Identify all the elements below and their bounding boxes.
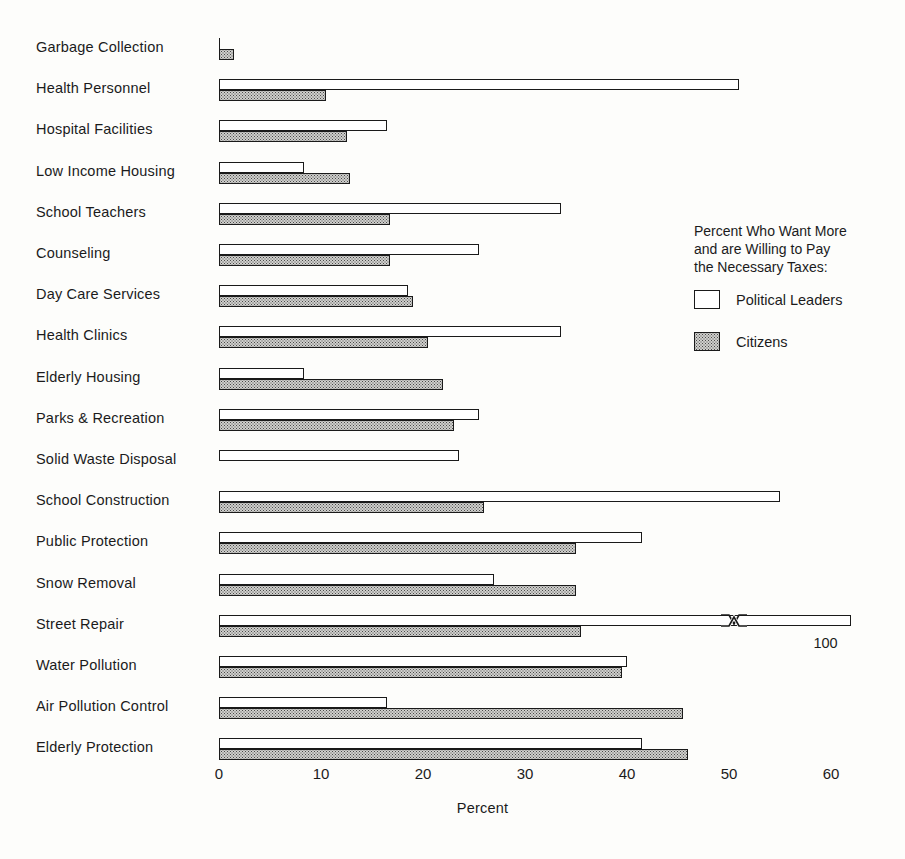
category-label: School Teachers — [36, 205, 226, 220]
bar-political-leaders — [219, 450, 459, 461]
x-axis-title-text: Percent — [457, 800, 508, 816]
category-label: Garbage Collection — [36, 40, 226, 55]
bar-citizens — [219, 49, 234, 60]
x-tick-label: 60 — [823, 765, 840, 782]
category-label: Elderly Protection — [36, 740, 226, 755]
bar-political-leaders — [219, 244, 479, 255]
bar-political-leaders — [219, 162, 304, 173]
bar-group — [219, 162, 905, 188]
x-axis-title: Percent — [0, 800, 905, 816]
legend-item-political-leaders: Political Leaders — [694, 290, 842, 309]
x-tick-label: 50 — [721, 765, 738, 782]
bar-group — [219, 656, 905, 682]
bar-value-label-100: 100 — [813, 635, 837, 651]
bar-political-leaders — [219, 203, 561, 214]
bar-political-leaders — [219, 285, 408, 296]
bar-political-leaders — [219, 120, 387, 131]
bar-group — [219, 532, 905, 558]
category-label: Low Income Housing — [36, 164, 226, 179]
bar-group — [219, 326, 905, 352]
category-label: School Construction — [36, 493, 226, 508]
category-label: Day Care Services — [36, 287, 226, 302]
legend-swatch-political-leaders — [694, 290, 720, 309]
bar-political-leaders — [219, 409, 479, 420]
bar-citizens — [219, 585, 576, 596]
category-label: Water Pollution — [36, 658, 226, 673]
bar-political-leaders — [219, 491, 780, 502]
bar-citizens — [219, 255, 390, 266]
bar-political-leaders — [219, 79, 739, 90]
bar-political-leaders — [219, 326, 561, 337]
x-tick-label: 40 — [619, 765, 636, 782]
category-label: Hospital Facilities — [36, 122, 226, 137]
category-label: Health Personnel — [36, 81, 226, 96]
bar-citizens — [219, 502, 484, 513]
bar-group — [219, 574, 905, 600]
category-label: Solid Waste Disposal — [36, 452, 226, 467]
legend-item-citizens: Citizens — [694, 332, 788, 351]
bar-citizens — [219, 420, 454, 431]
x-tick-label: 10 — [313, 765, 330, 782]
category-label: Air Pollution Control — [36, 699, 226, 714]
bar-citizens — [219, 90, 326, 101]
legend-title: Percent Who Want More and are Willing to… — [694, 222, 904, 276]
bar-political-leaders — [219, 615, 851, 626]
category-label: Street Repair — [36, 617, 226, 632]
category-label: Snow Removal — [36, 576, 226, 591]
bar-group — [219, 697, 905, 723]
bar-citizens — [219, 131, 347, 142]
bar-group — [219, 368, 905, 394]
bar-citizens — [219, 667, 622, 678]
bar-group — [219, 491, 905, 517]
bar-citizens — [219, 749, 688, 760]
bar-citizens — [219, 337, 428, 348]
legend: Percent Who Want More and are Willing to… — [694, 222, 904, 276]
bar-political-leaders — [219, 656, 627, 667]
legend-label-political-leaders: Political Leaders — [736, 292, 842, 308]
bar-political-leaders — [219, 697, 387, 708]
legend-swatch-citizens — [694, 332, 720, 351]
bar-group — [219, 38, 905, 64]
bar-citizens — [219, 214, 390, 225]
bar-citizens — [219, 173, 350, 184]
category-label: Elderly Housing — [36, 370, 226, 385]
bar-political-leaders — [219, 38, 220, 49]
x-tick-label: 20 — [415, 765, 432, 782]
legend-label-citizens: Citizens — [736, 334, 788, 350]
bar-political-leaders — [219, 532, 642, 543]
bar-citizens — [219, 296, 413, 307]
x-tick-label: 30 — [517, 765, 534, 782]
bar-citizens — [219, 543, 576, 554]
x-tick-label: 0 — [215, 765, 223, 782]
horizontal-bar-chart: Garbage CollectionHealth PersonnelHospit… — [0, 0, 905, 859]
bar-group: 100 — [219, 615, 905, 641]
plot-area: 100 — [219, 0, 905, 790]
category-label-column: Garbage CollectionHealth PersonnelHospit… — [36, 0, 226, 790]
category-label: Parks & Recreation — [36, 411, 226, 426]
bar-group — [219, 450, 905, 476]
bar-political-leaders — [219, 574, 494, 585]
bar-citizens — [219, 708, 683, 719]
category-label: Counseling — [36, 246, 226, 261]
category-label: Public Protection — [36, 534, 226, 549]
category-label: Health Clinics — [36, 328, 226, 343]
bar-political-leaders — [219, 738, 642, 749]
bar-group — [219, 120, 905, 146]
x-axis-ticks: 0102030405060 — [219, 765, 905, 795]
bar-group — [219, 409, 905, 435]
bar-group — [219, 738, 905, 764]
bar-political-leaders — [219, 368, 304, 379]
bar-citizens — [219, 626, 581, 637]
bar-citizens — [219, 379, 443, 390]
bar-group — [219, 79, 905, 105]
